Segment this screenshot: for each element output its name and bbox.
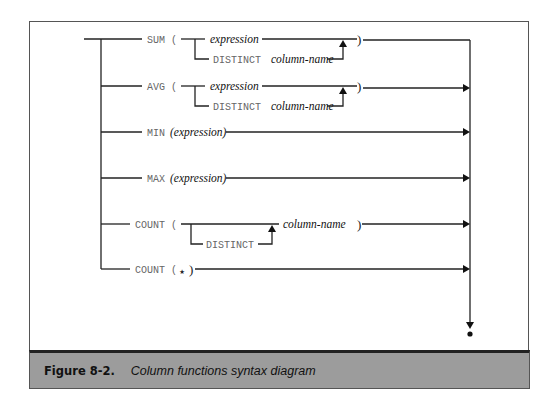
row-count: COUNT ( DISTINCT column-name ) bbox=[101, 217, 470, 251]
max-expression: (expression) bbox=[170, 172, 227, 185]
arrow-up-icon bbox=[339, 87, 347, 94]
count-keyword: COUNT ( bbox=[135, 220, 177, 231]
sum-column-name: column-name bbox=[271, 53, 334, 65]
arrow-up-icon bbox=[268, 225, 276, 232]
min-expression: (expression) bbox=[170, 126, 227, 139]
sum-expression: expression bbox=[210, 33, 259, 46]
min-keyword: MIN bbox=[147, 128, 165, 139]
sum-distinct-keyword: DISTINCT bbox=[213, 55, 261, 66]
count-star-keyword: COUNT ( bbox=[135, 265, 177, 276]
row-avg: AVG ( expression DISTINCT column-name ) bbox=[101, 79, 470, 113]
arrow-right-icon bbox=[463, 220, 470, 228]
row-max: MAX (expression) bbox=[101, 172, 470, 185]
count-close-paren: ) bbox=[357, 217, 361, 232]
max-keyword: MAX bbox=[147, 174, 165, 185]
arrow-right-icon bbox=[463, 265, 470, 273]
arrow-right-icon bbox=[463, 84, 470, 92]
arrow-right-icon bbox=[463, 128, 470, 136]
avg-expression: expression bbox=[210, 80, 259, 93]
row-count-star: COUNT ( ⋆ ) bbox=[101, 262, 470, 279]
figure-caption: Figure 8-2. Column functions syntax diag… bbox=[29, 350, 530, 389]
sum-close-paren: ) bbox=[357, 32, 361, 47]
figure-number: Figure 8-2. bbox=[44, 364, 115, 378]
count-column-name: column-name bbox=[283, 218, 346, 230]
arrow-down-icon bbox=[466, 322, 474, 329]
avg-keyword: AVG ( bbox=[147, 82, 177, 93]
end-dot-icon bbox=[467, 331, 472, 336]
syntax-diagram: SUM ( expression DISTINCT column-name ) … bbox=[0, 0, 555, 399]
arrow-right-icon bbox=[463, 174, 470, 182]
figure-title: Column functions syntax diagram bbox=[131, 364, 316, 378]
star-icon: ⋆ bbox=[178, 264, 186, 279]
arrow-up-icon bbox=[339, 40, 347, 47]
row-sum: SUM ( expression DISTINCT column-name ) bbox=[147, 32, 470, 66]
count-star-close-paren: ) bbox=[189, 262, 193, 277]
row-min: MIN (expression) bbox=[101, 126, 470, 139]
count-distinct-keyword: DISTINCT bbox=[206, 240, 254, 251]
sum-keyword: SUM ( bbox=[147, 35, 177, 46]
avg-distinct-keyword: DISTINCT bbox=[213, 102, 261, 113]
avg-column-name: column-name bbox=[271, 100, 334, 112]
avg-close-paren: ) bbox=[357, 79, 361, 94]
